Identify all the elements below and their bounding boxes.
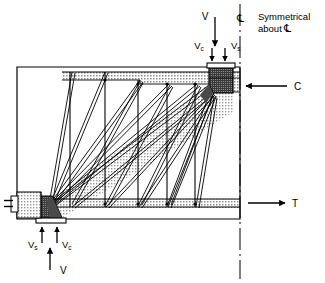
bottom-load-annotations: [42, 227, 57, 270]
figure-root: V Vc Vs ℄ Symmetrical about ℄ C T Vs: [0, 0, 325, 283]
label-top-load-v: V: [202, 11, 209, 22]
label-bottom-vc-sub: c: [68, 244, 72, 251]
anchor-plate: [11, 196, 18, 212]
label-bottom-vs: Vs: [28, 239, 38, 251]
strut-and-tie-diagram: V Vc Vs ℄ Symmetrical about ℄ C T Vs: [0, 0, 325, 283]
label-tension-t: T: [292, 198, 298, 209]
label-top-vc: Vc: [194, 40, 204, 52]
label-top-vs-sub: s: [237, 45, 241, 52]
centerline-symbol-note: ℄: [283, 22, 291, 34]
symmetry-note-prefix: about: [258, 23, 284, 34]
symmetry-note-line1: Symmetrical: [258, 11, 310, 22]
label-top-vc-sub: c: [201, 45, 205, 52]
centerline-symbol-top: ℄: [236, 12, 244, 24]
end-anchorage-detail: [4, 192, 41, 218]
label-bottom-vs-sub: s: [34, 244, 38, 251]
label-compression-c: C: [294, 81, 301, 92]
top-load-annotations: [212, 17, 225, 61]
label-bottom-load-v: V: [60, 265, 67, 276]
label-bottom-vc: Vc: [62, 239, 72, 251]
bearing-plate-top: [207, 63, 235, 68]
symmetry-note-line2: about ℄: [258, 22, 291, 34]
bearing-plate-bottom: [36, 218, 66, 223]
